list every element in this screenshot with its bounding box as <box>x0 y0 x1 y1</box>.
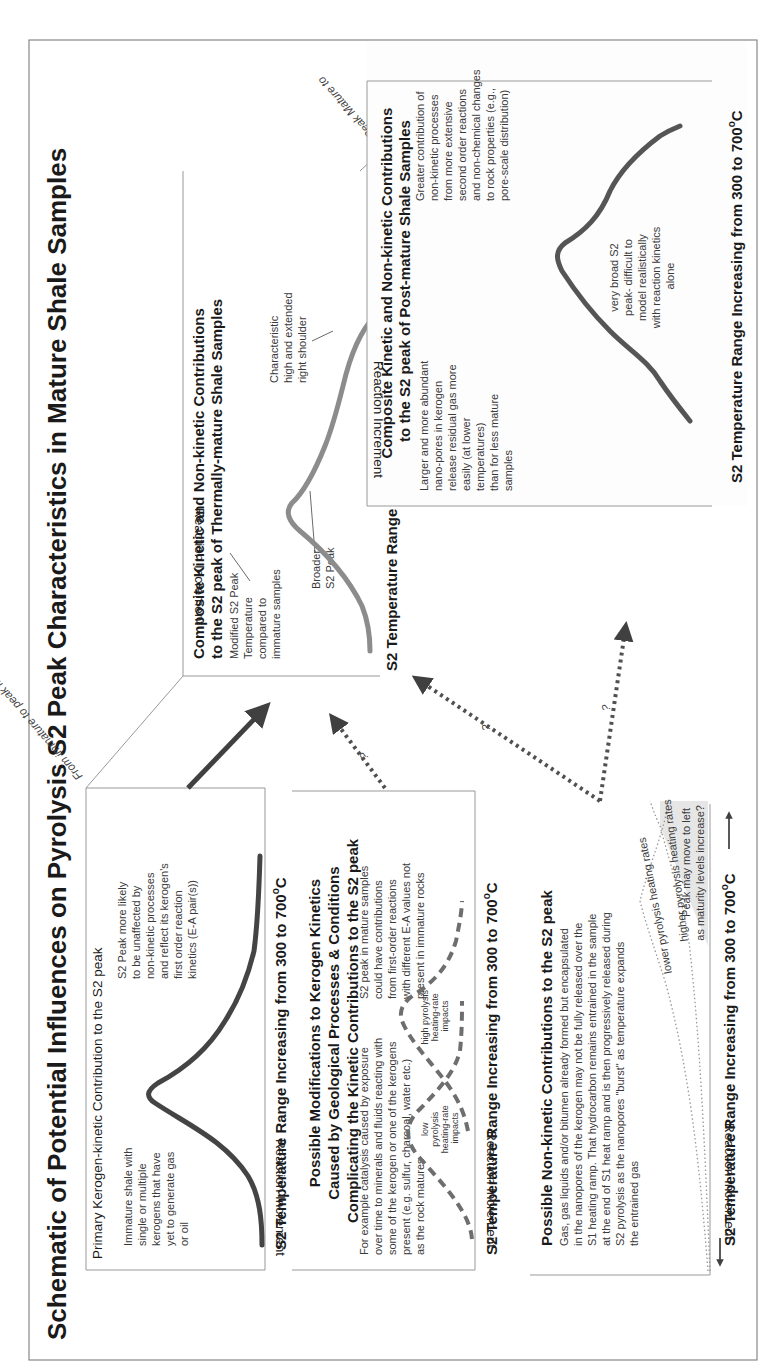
panel-post-mature: Composite Kinetic and Non-kinetic Contri… <box>367 41 747 506</box>
modifications-right-note: S2 peak in mature samples could have con… <box>358 860 426 1000</box>
primary-left-note: Immature shale with single or multiple k… <box>122 1145 190 1247</box>
post-mature-y-axis-label: Reaction Increment <box>371 361 386 478</box>
high-rate-label: high pyrolysis heating-rate impacts <box>420 987 450 1044</box>
modifications-y-axis-label: Reaction Increment <box>484 1131 499 1248</box>
panel-non-kinetic: Possible Non-kinetic Contributions to th… <box>530 798 738 1275</box>
modified-temp-note: Modified S2 Peak Temperature compared to… <box>228 569 282 659</box>
primary-title: Primary Kerogen-kinetic Contribution to … <box>90 947 105 1259</box>
question-mark-2: ? <box>480 724 492 731</box>
non-kinetic-note: Gas, gas liquids and/or bitumen already … <box>558 909 640 1246</box>
modifications-title: Possible Modifications to Kerogen Kineti… <box>306 838 361 1223</box>
panel-primary: Primary Kerogen-kinetic Contribution to … <box>86 788 289 1270</box>
arrow-non-kinetic-to-post-mature <box>600 631 625 801</box>
panel-modifications: Possible Modifications to Kerogen Kineti… <box>292 791 500 1270</box>
arrow-primary-to-mature <box>188 711 262 788</box>
question-mark-1: ? <box>358 752 370 759</box>
low-rate-label: low pyrolysis heating-rate impacts <box>420 1103 460 1154</box>
post-mature-x-axis-label: S2 Temperature Range Increasing from 300… <box>726 110 745 483</box>
thermally-mature-y-axis-label: Reaction Increment <box>192 508 207 625</box>
figure-canvas: Schematic of Potential Influences on Pyr… <box>0 0 772 1371</box>
non-kinetic-title: Possible Non-kinetic Contributions to th… <box>538 889 555 1246</box>
question-mark-3: ? <box>600 704 612 711</box>
arrow-non-kinetic-to-mature <box>420 681 600 801</box>
right-shoulder-note: Characteristic high and extended right s… <box>268 289 308 383</box>
modifications-left-note: For example catalysis caused by exposure… <box>358 1035 426 1255</box>
non-kinetic-y-axis-label: Reaction Increment <box>722 1123 737 1240</box>
primary-right-note: S2 Peak more likely to be unaffected by … <box>116 860 198 979</box>
right-shoulder-pointer <box>312 331 333 341</box>
primary-y-axis-label: Reaction Increment <box>273 1139 288 1256</box>
